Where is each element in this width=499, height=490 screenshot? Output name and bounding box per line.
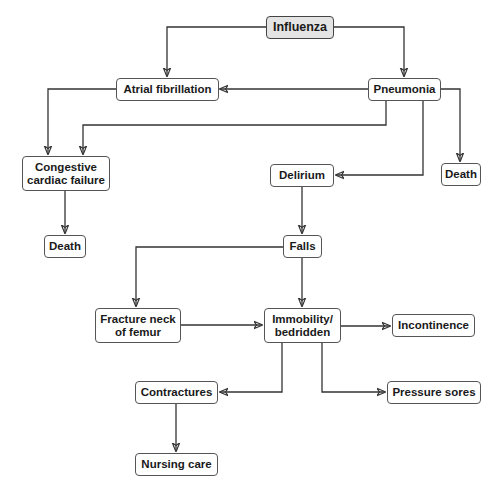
node-influenza: Influenza [266, 16, 334, 39]
edge-influenza-pneumonia [334, 27, 404, 76]
edge-pneumonia-death [441, 89, 460, 161]
flowchart: Influenza Atrial fibrillation Pneumonia … [0, 0, 499, 490]
node-falls: Falls [283, 235, 322, 258]
edge-pneumonia-delirium [336, 101, 423, 175]
node-fracture-neck-of-femur: Fracture neck of femur [95, 308, 181, 343]
node-pneumonia: Pneumonia [368, 78, 441, 101]
node-immobility-bedridden: Immobility/ bedridden [264, 308, 341, 343]
node-incontinence: Incontinence [392, 314, 475, 337]
edge-influenza-af [167, 27, 266, 76]
edge-immobility-pressure [322, 343, 385, 392]
node-nursing-care: Nursing care [135, 453, 218, 476]
edge-immobility-contractures [220, 343, 282, 392]
node-pressure-sores: Pressure sores [387, 381, 481, 404]
edge-falls-fracture [136, 247, 283, 306]
edge-pneumonia-ccf [83, 101, 386, 154]
node-congestive-cardiac-failure: Congestive cardiac failure [22, 156, 110, 191]
node-death-ccf: Death [44, 235, 86, 258]
node-delirium: Delirium [270, 164, 334, 187]
edge-af-ccf [48, 89, 116, 154]
node-contractures: Contractures [135, 381, 218, 404]
node-death-pneumonia: Death [441, 163, 481, 186]
node-atrial-fibrillation: Atrial fibrillation [116, 78, 219, 101]
